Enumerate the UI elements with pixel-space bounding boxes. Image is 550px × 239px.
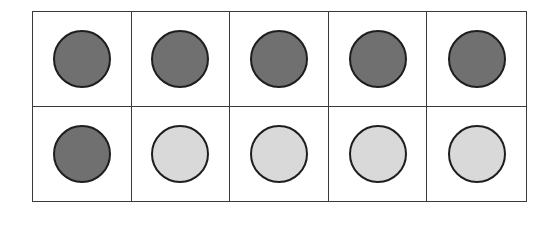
frame-cell — [329, 12, 428, 107]
frame-cell — [230, 107, 329, 202]
frame-cell — [427, 107, 526, 202]
empty-counter-icon — [448, 125, 506, 183]
frame-cell — [230, 12, 329, 107]
frame-cell — [33, 107, 132, 202]
frame-cell — [132, 107, 231, 202]
filled-counter-icon — [151, 30, 209, 88]
empty-counter-icon — [151, 125, 209, 183]
ten-frame — [32, 11, 527, 202]
filled-counter-icon — [53, 30, 111, 88]
filled-counter-icon — [250, 30, 308, 88]
frame-cell — [427, 12, 526, 107]
frame-cell — [132, 12, 231, 107]
filled-counter-icon — [448, 30, 506, 88]
frame-cell — [33, 12, 132, 107]
filled-counter-icon — [349, 30, 407, 88]
empty-counter-icon — [250, 125, 308, 183]
empty-counter-icon — [349, 125, 407, 183]
filled-counter-icon — [53, 125, 111, 183]
frame-cell — [329, 107, 428, 202]
